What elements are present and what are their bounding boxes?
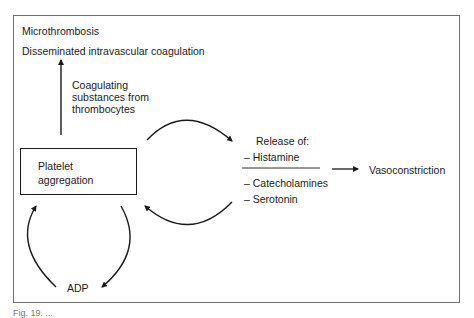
arrow-adp-to-box xyxy=(28,206,56,287)
figure-caption: Fig. 19. ... xyxy=(13,308,53,318)
arrow-to-release xyxy=(147,120,232,141)
arrow-release-to-box xyxy=(145,202,232,225)
arrow-box-to-adp xyxy=(102,206,130,287)
